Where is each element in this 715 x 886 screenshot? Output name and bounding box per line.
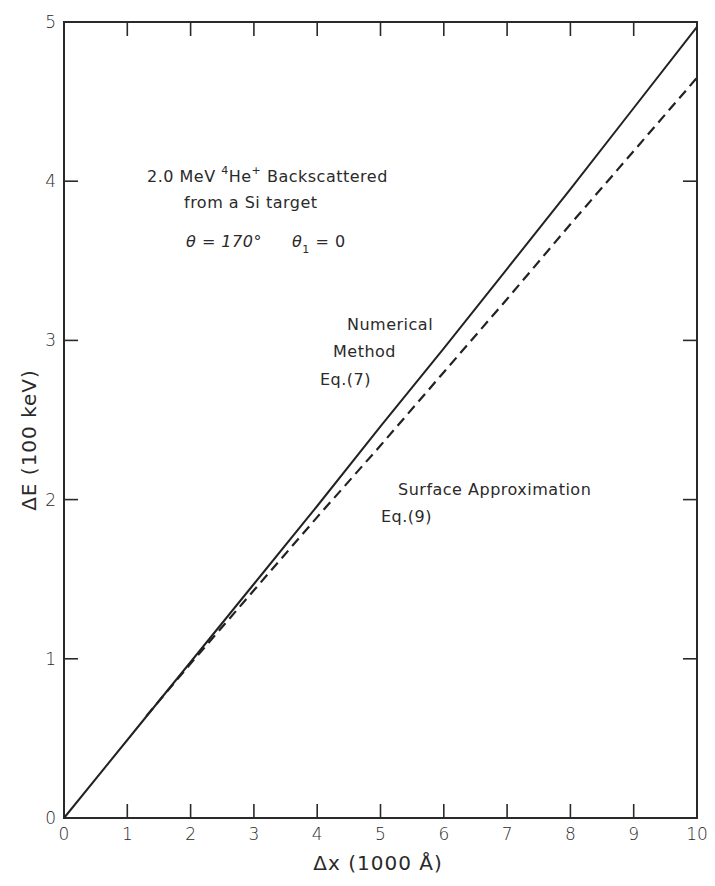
numerical-method-line	[64, 27, 697, 818]
plot-frame-rect	[64, 22, 697, 818]
numerical-method-label: Numerical Method Eq.(7)	[320, 315, 433, 389]
x-tick-label: 0	[59, 824, 70, 844]
surface-approximation-label: Surface Approximation Eq.(9)	[381, 480, 591, 526]
conditions-annotation: 2.0 MeV 4He+ Backscattered from a Si tar…	[147, 164, 388, 256]
x-tick-label: 7	[502, 824, 513, 844]
axis-ticks	[64, 22, 697, 818]
y-tick-label: 4	[45, 171, 56, 191]
conditions-theta1: θ1 = 0	[292, 232, 346, 256]
chart: 012345678910012345 Δx (1000 Å) ΔE (100 k…	[0, 0, 715, 886]
x-tick-label: 10	[686, 824, 708, 844]
numerical-label-line-1: Numerical	[347, 315, 433, 334]
y-tick-label: 2	[45, 490, 56, 510]
y-axis-title: ΔE (100 keV)	[17, 369, 41, 511]
data-series	[64, 27, 697, 818]
x-tick-label: 6	[438, 824, 449, 844]
conditions-line-2: from a Si target	[184, 193, 318, 212]
x-tick-label: 4	[312, 824, 323, 844]
surface-label-line-2: Eq.(9)	[381, 507, 432, 526]
plot-frame	[64, 22, 697, 818]
y-tick-label: 3	[45, 330, 56, 350]
x-tick-label: 9	[628, 824, 639, 844]
numerical-label-line-3: Eq.(7)	[320, 370, 371, 389]
conditions-line-1: 2.0 MeV 4He+ Backscattered	[147, 164, 388, 186]
y-tick-label: 1	[45, 649, 56, 669]
surface-label-line-1: Surface Approximation	[398, 480, 591, 499]
y-tick-label: 5	[45, 12, 56, 32]
x-tick-label: 8	[565, 824, 576, 844]
x-tick-label: 1	[122, 824, 133, 844]
x-tick-label: 5	[375, 824, 386, 844]
numerical-label-line-2: Method	[333, 342, 396, 361]
x-axis-title: Δx (1000 Å)	[313, 851, 442, 875]
x-tick-label: 3	[248, 824, 259, 844]
y-tick-label: 0	[45, 808, 56, 828]
x-tick-label: 2	[185, 824, 196, 844]
conditions-theta: θ = 170°	[186, 232, 262, 251]
